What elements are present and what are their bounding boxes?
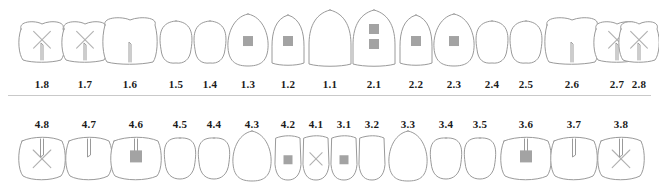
tooth-outline [233, 131, 271, 181]
tooth-outline [303, 136, 329, 180]
tooth-1-7[interactable] [62, 22, 108, 63]
filling-square [449, 36, 459, 46]
filling-square [369, 39, 379, 49]
tooth-2-5[interactable] [510, 21, 542, 63]
tooth-outline [198, 138, 229, 179]
tooth-4-2[interactable] [275, 136, 301, 180]
filling-square [284, 155, 293, 164]
tooth-3-4[interactable] [430, 138, 461, 179]
tooth-outline [545, 18, 599, 65]
tooth-4-8[interactable] [19, 137, 66, 180]
tooth-outline [510, 21, 542, 63]
tooth-outline [160, 21, 192, 63]
tooth-number-4-7: 4.7 [82, 118, 96, 130]
tooth-1-1[interactable] [309, 10, 351, 66]
tooth-2-2[interactable] [400, 15, 432, 65]
tooth-3-6[interactable] [501, 137, 552, 180]
filling-square [130, 150, 142, 162]
tooth-outline [389, 131, 427, 181]
tooth-number-1-5: 1.5 [169, 78, 183, 90]
tooth-outline [353, 10, 395, 66]
filling-square [243, 36, 253, 46]
tooth-4-7[interactable] [66, 137, 113, 180]
tooth-number-1-3: 1.3 [241, 78, 255, 90]
tooth-number-3-5: 3.5 [473, 118, 487, 130]
filling-square [283, 36, 293, 46]
tooth-2-4[interactable] [476, 21, 508, 63]
tooth-number-4-1: 4.1 [309, 118, 323, 130]
tooth-2-1[interactable] [353, 10, 395, 66]
tooth-1-8[interactable] [19, 22, 65, 63]
tooth-number-4-8: 4.8 [35, 118, 49, 130]
tooth-number-2-4: 2.4 [485, 78, 499, 90]
tooth-2-6[interactable] [545, 18, 599, 65]
tooth-1-4[interactable] [194, 21, 226, 63]
tooth-outline [309, 10, 351, 66]
tooth-number-2-6: 2.6 [565, 78, 579, 90]
tooth-1-2[interactable] [272, 15, 304, 65]
tooth-1-3[interactable] [228, 14, 268, 66]
tooth-number-3-4: 3.4 [439, 118, 453, 130]
tooth-number-2-8: 2.8 [632, 78, 646, 90]
tooth-number-1-6: 1.6 [123, 78, 137, 90]
tooth-number-4-4: 4.4 [207, 118, 221, 130]
tooth-number-4-6: 4.6 [129, 118, 143, 130]
tooth-4-6[interactable] [111, 137, 162, 180]
tooth-outline [359, 136, 385, 180]
tooth-outline [551, 137, 598, 180]
tooth-number-2-1: 2.1 [367, 78, 381, 90]
tooth-outline [103, 18, 157, 65]
tooth-outline [430, 138, 461, 179]
tooth-3-2[interactable] [359, 136, 385, 180]
filling-square [369, 24, 379, 34]
tooth-number-1-8: 1.8 [35, 78, 49, 90]
filling-square [520, 150, 532, 162]
tooth-4-5[interactable] [164, 138, 195, 179]
tooth-number-1-7: 1.7 [78, 78, 92, 90]
tooth-number-4-2: 4.2 [281, 118, 295, 130]
tooth-number-2-3: 2.3 [447, 78, 461, 90]
tooth-number-3-3: 3.3 [401, 118, 415, 130]
tooth-outline [476, 21, 508, 63]
tooth-number-2-7: 2.7 [610, 78, 624, 90]
tooth-number-3-8: 3.8 [614, 118, 628, 130]
tooth-number-1-1: 1.1 [323, 78, 337, 90]
tooth-2-8[interactable] [619, 22, 659, 63]
tooth-number-3-2: 3.2 [365, 118, 379, 130]
tooth-4-1[interactable] [303, 136, 329, 180]
tooth-number-4-3: 4.3 [245, 118, 259, 130]
tooth-1-6[interactable] [103, 18, 157, 65]
tooth-3-5[interactable] [464, 138, 495, 179]
tooth-outline [464, 138, 495, 179]
tooth-number-2-2: 2.2 [409, 78, 423, 90]
tooth-3-7[interactable] [551, 137, 598, 180]
tooth-number-2-5: 2.5 [519, 78, 533, 90]
tooth-3-3[interactable] [389, 131, 427, 181]
tooth-outline [62, 22, 108, 63]
tooth-number-1-4: 1.4 [203, 78, 217, 90]
tooth-2-3[interactable] [434, 14, 474, 66]
tooth-1-5[interactable] [160, 21, 192, 63]
tooth-number-3-6: 3.6 [519, 118, 533, 130]
arch-divider [8, 95, 651, 96]
filling-square [340, 155, 349, 164]
tooth-4-3[interactable] [233, 131, 271, 181]
tooth-outline [619, 22, 659, 63]
filling-square [411, 36, 421, 46]
tooth-outline [66, 137, 113, 180]
tooth-outline [19, 22, 65, 63]
tooth-number-1-2: 1.2 [281, 78, 295, 90]
tooth-number-3-7: 3.7 [567, 118, 581, 130]
tooth-outline [164, 138, 195, 179]
tooth-3-8[interactable] [598, 137, 645, 180]
tooth-number-3-1: 3.1 [337, 118, 351, 130]
tooth-number-4-5: 4.5 [173, 118, 187, 130]
tooth-outline [194, 21, 226, 63]
tooth-4-4[interactable] [198, 138, 229, 179]
tooth-3-1[interactable] [331, 136, 357, 180]
